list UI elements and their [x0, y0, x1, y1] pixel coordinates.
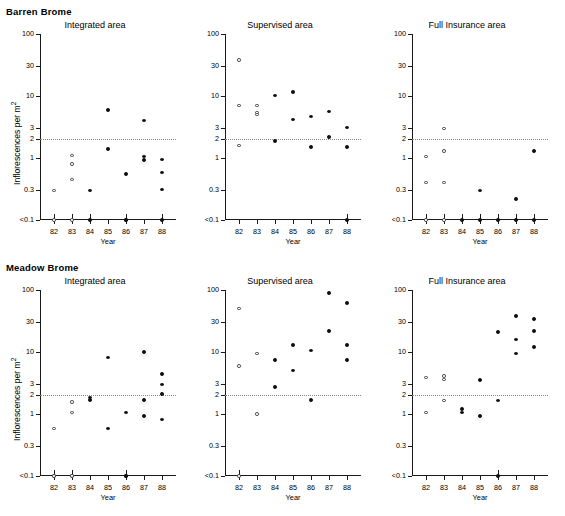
y-tick	[221, 322, 225, 323]
data-point-open	[237, 58, 241, 62]
data-point-open	[255, 352, 259, 356]
x-tick	[144, 220, 145, 224]
group-title-barren-brome: Barren Brome	[6, 6, 72, 17]
data-point-filled	[106, 427, 110, 431]
y-axis-title-superscript: 2	[10, 102, 17, 106]
y-tick	[36, 476, 40, 477]
data-point-filled	[291, 343, 295, 347]
x-tick-label: 83	[253, 228, 261, 235]
data-point-filled	[106, 147, 110, 151]
y-tick-label: 30	[211, 63, 219, 70]
y-tick	[408, 34, 412, 35]
data-point-open	[70, 178, 74, 182]
x-tick-label: 83	[68, 484, 76, 491]
data-point-filled	[327, 291, 331, 295]
x-tick-label: 87	[512, 228, 520, 235]
y-tick-label: 1	[402, 410, 406, 417]
y-tick-label: 10	[26, 348, 34, 355]
y-tick-label: 10	[211, 92, 219, 99]
data-point-filled	[478, 218, 482, 222]
y-tick-label: 3	[215, 125, 219, 132]
x-tick-label: 85	[476, 228, 484, 235]
y-tick-label: 3	[215, 381, 219, 388]
y-tick	[408, 128, 412, 129]
plot-area-barren-integrated: 10030103210.3<0.182838485868788YearInflo…	[40, 34, 158, 220]
y-tick	[408, 476, 412, 477]
x-tick	[347, 476, 348, 480]
data-point-filled	[160, 218, 164, 222]
x-tick-label: 86	[307, 484, 315, 491]
y-tick-label: 10	[26, 92, 34, 99]
x-tick-label: 85	[289, 228, 297, 235]
data-point-filled	[460, 218, 464, 222]
x-tick-label: 88	[343, 228, 351, 235]
y-axis-line	[40, 34, 41, 220]
x-tick-label: 84	[271, 484, 279, 491]
x-tick	[257, 220, 258, 224]
data-point-open	[442, 378, 446, 382]
y-tick	[221, 384, 225, 385]
y-tick	[221, 446, 225, 447]
data-point-filled	[345, 343, 349, 347]
x-tick-label: 86	[494, 228, 502, 235]
y-tick-label: <0.1	[20, 216, 34, 223]
x-tick-label: 82	[422, 228, 430, 235]
data-point-open	[424, 155, 428, 159]
data-point-open	[424, 376, 428, 380]
y-tick	[408, 66, 412, 67]
data-point-open	[70, 400, 74, 404]
x-tick-label: 82	[235, 228, 243, 235]
x-tick-label: 84	[86, 484, 94, 491]
y-axis-title-text: Inflorescences per m	[12, 105, 22, 185]
x-tick-label: 87	[512, 484, 520, 491]
y-tick-label: 0.3	[24, 187, 34, 194]
y-tick-label: 1	[215, 154, 219, 161]
x-tick-label: 84	[458, 484, 466, 491]
y-tick-label: 100	[207, 286, 219, 293]
data-point-filled	[160, 392, 164, 396]
y-tick	[408, 220, 412, 221]
data-point-filled	[532, 345, 536, 349]
x-tick	[144, 476, 145, 480]
y-tick	[221, 290, 225, 291]
threshold-line	[412, 395, 548, 396]
data-point-open	[237, 104, 241, 108]
data-point-filled	[496, 399, 500, 403]
y-tick-label: 2	[215, 136, 219, 143]
y-tick	[221, 476, 225, 477]
data-point-filled	[514, 338, 518, 342]
threshold-line	[225, 395, 361, 396]
x-tick-label: 82	[422, 484, 430, 491]
data-point-filled	[309, 145, 313, 149]
data-point-open	[70, 474, 74, 478]
x-tick-label: 83	[440, 228, 448, 235]
y-tick	[221, 96, 225, 97]
plot-area-barren-full-insurance: 10030103210.3<0.182838485868788Year	[412, 34, 530, 220]
data-point-open	[424, 411, 428, 415]
data-point-filled	[309, 349, 313, 353]
y-tick	[221, 34, 225, 35]
x-tick	[275, 476, 276, 480]
y-tick	[36, 34, 40, 35]
data-point-filled	[345, 301, 349, 305]
data-point-open	[52, 189, 56, 193]
x-tick-label: 87	[325, 484, 333, 491]
data-point-filled	[460, 411, 464, 415]
y-tick-label: 10	[398, 348, 406, 355]
x-tick-label: 87	[140, 484, 148, 491]
panel-barren-integrated: Integrated area10030103210.3<0.182838485…	[0, 20, 190, 250]
y-tick-label: 3	[30, 381, 34, 388]
y-tick	[408, 384, 412, 385]
y-tick-label: <0.1	[205, 216, 219, 223]
x-tick	[239, 220, 240, 224]
y-tick	[36, 414, 40, 415]
data-point-filled	[345, 358, 349, 362]
y-tick-label: <0.1	[392, 472, 406, 479]
data-point-open	[52, 218, 56, 222]
x-axis-title: Year	[412, 493, 548, 502]
data-point-filled	[327, 135, 331, 139]
y-tick-label: 30	[211, 319, 219, 326]
data-point-filled	[327, 110, 331, 114]
x-tick-label: 82	[235, 484, 243, 491]
data-point-filled	[106, 356, 110, 360]
